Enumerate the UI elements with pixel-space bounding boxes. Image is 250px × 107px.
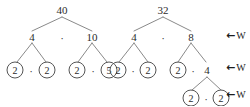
tree-edge	[134, 43, 148, 62]
tree-edge	[207, 77, 221, 90]
factor-node: 32	[158, 5, 169, 16]
multiplication-dot: ·	[60, 33, 64, 44]
factor-node: 4	[131, 32, 137, 43]
tree-edge	[134, 17, 163, 31]
tree-edge	[62, 17, 92, 31]
tree-edge	[17, 43, 32, 62]
left-arrow-icon: ←	[226, 31, 234, 41]
annotation-row: ←W	[226, 31, 246, 41]
left-arrow-icon: ←	[226, 63, 234, 73]
annotation-label: W	[236, 63, 245, 73]
tree-edge	[78, 43, 92, 62]
tree-edge	[32, 17, 62, 31]
tree-edge	[119, 43, 134, 62]
annotation-row: ←W	[226, 63, 246, 73]
multiplication-dot: ·	[204, 94, 208, 105]
annotation-row: ←W	[226, 90, 246, 100]
tree-edge	[178, 43, 191, 62]
prime-factor-node: 2	[140, 62, 157, 79]
left-arrow-icon: ←	[226, 90, 234, 100]
prime-factor-node: 2	[7, 62, 24, 79]
tree-edge	[92, 43, 107, 62]
factor-node: 4	[29, 32, 35, 43]
multiplication-dot: ·	[29, 66, 33, 77]
prime-factor-node: 2	[69, 62, 86, 79]
annotation-label: W	[236, 31, 245, 41]
multiplication-dot: ·	[191, 66, 195, 77]
prime-factor-node: 2	[170, 62, 187, 79]
prime-factor-node: 2	[39, 62, 56, 79]
tree-edge	[32, 43, 46, 62]
annotation-label: W	[236, 90, 245, 100]
factor-node: 40	[57, 5, 68, 16]
prime-factor-node: 2	[110, 62, 127, 79]
prime-factor-node: 2	[183, 90, 200, 107]
factor-node: 10	[87, 32, 98, 43]
factor-tree-figure: 404102225···3248222422···· ←W←W←W	[0, 0, 250, 106]
multiplication-dot: ·	[161, 33, 165, 44]
factor-node: 4	[204, 65, 210, 76]
tree-edge	[192, 77, 207, 90]
multiplication-dot: ·	[91, 66, 95, 77]
factor-node: 8	[188, 32, 194, 43]
tree-edge	[163, 17, 191, 31]
tree-edges	[0, 0, 250, 106]
multiplication-dot: ·	[131, 66, 135, 77]
tree-edge	[191, 43, 206, 62]
